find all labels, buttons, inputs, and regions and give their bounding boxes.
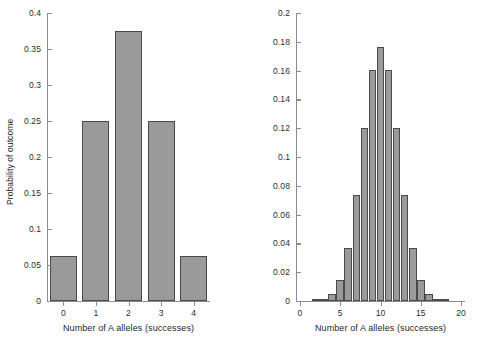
y-axis-tick-label: 0.14 — [256, 94, 290, 104]
bar — [361, 128, 369, 301]
y-axis-tick — [297, 128, 301, 129]
y-axis-tick-label: 0.04 — [256, 238, 290, 248]
y-axis-tick — [48, 49, 52, 50]
y-axis-tick-label: 0.16 — [256, 66, 290, 76]
x-axis-tick — [461, 302, 462, 306]
y-axis-tick — [297, 186, 301, 187]
y-axis-tick — [297, 71, 301, 72]
figure-container: 00.050.10.150.20.250.30.350.401234Number… — [0, 0, 492, 339]
bar — [409, 248, 417, 301]
chart-panel-right: 00.020.040.060.080.10.120.140.160.180.20… — [246, 0, 492, 339]
bar — [312, 299, 320, 301]
bar — [180, 256, 207, 301]
plot-area-right: 00.020.040.060.080.10.120.140.160.180.20… — [296, 13, 465, 301]
y-axis-tick — [48, 265, 52, 266]
y-axis-tick — [48, 301, 52, 302]
y-axis-tick-label: 0.02 — [256, 267, 290, 277]
x-axis-tick — [63, 302, 64, 306]
bar — [385, 70, 393, 301]
y-axis-tick — [48, 121, 52, 122]
x-axis-tick-label: 5 — [338, 308, 343, 318]
x-axis-title: Number of A alleles (successes) — [296, 323, 465, 333]
y-axis-tick-label: 0.1 — [256, 152, 290, 162]
y-axis-tick-label: 0.3 — [7, 80, 41, 90]
y-axis-tick — [297, 13, 301, 14]
bar — [425, 294, 433, 301]
x-axis-tick — [381, 302, 382, 306]
y-axis-tick — [48, 193, 52, 194]
bar — [320, 299, 328, 301]
y-axis-tick-label: 0 — [7, 296, 41, 306]
bar — [336, 280, 344, 301]
y-axis-tick-label: 0.05 — [7, 260, 41, 270]
y-axis-tick-label: 0.08 — [256, 181, 290, 191]
y-axis-tick — [297, 157, 301, 158]
x-axis-tick-label: 3 — [159, 308, 164, 318]
x-axis-tick-label: 0 — [298, 308, 303, 318]
x-axis-tick-label: 4 — [191, 308, 196, 318]
y-axis-tick-label: 0.2 — [256, 8, 290, 18]
y-axis-tick-label: 0.35 — [7, 44, 41, 54]
bar — [441, 299, 449, 301]
bar — [115, 31, 142, 301]
x-axis-tick-label: 20 — [456, 308, 466, 318]
x-axis-tick — [194, 302, 195, 306]
x-axis-tick — [340, 302, 341, 306]
x-axis-tick-label: 10 — [376, 308, 386, 318]
bar — [50, 256, 77, 301]
y-axis-tick — [48, 85, 52, 86]
y-axis-tick-label: 0.18 — [256, 37, 290, 47]
y-axis-tick — [48, 229, 52, 230]
x-axis-tick-label: 0 — [61, 308, 66, 318]
x-axis-tick — [96, 302, 97, 306]
y-axis-tick — [297, 243, 301, 244]
bar — [344, 248, 352, 301]
x-axis-title: Number of A alleles (successes) — [47, 323, 210, 333]
bar — [369, 70, 377, 301]
y-axis-tick — [297, 42, 301, 43]
plot-area-left: 00.050.10.150.20.250.30.350.401234Number… — [47, 13, 210, 301]
x-axis-tick-label: 15 — [416, 308, 426, 318]
y-axis-tick — [48, 157, 52, 158]
y-axis-tick-label: 0.1 — [7, 224, 41, 234]
bar — [393, 128, 401, 301]
y-axis-tick — [297, 99, 301, 100]
chart-panel-left: 00.050.10.150.20.250.30.350.401234Number… — [0, 0, 246, 339]
bar — [82, 121, 109, 301]
x-axis-tick — [300, 302, 301, 306]
y-axis-tick — [48, 13, 52, 14]
x-axis-tick-label: 2 — [126, 308, 131, 318]
y-axis-tick-label: 0.12 — [256, 123, 290, 133]
x-axis-tick — [421, 302, 422, 306]
bar — [353, 195, 361, 301]
y-axis-tick-label: 0.4 — [7, 8, 41, 18]
y-axis-tick-label: 0 — [256, 296, 290, 306]
y-axis-title: Probability of outcome — [5, 119, 15, 205]
bar — [148, 121, 175, 301]
bar — [377, 47, 385, 301]
bar — [417, 280, 425, 301]
y-axis-tick — [297, 215, 301, 216]
x-axis-tick — [129, 302, 130, 306]
y-axis-tick-label: 0.06 — [256, 210, 290, 220]
bar — [433, 299, 441, 301]
bar — [328, 294, 336, 301]
x-axis-tick — [161, 302, 162, 306]
y-axis-tick — [297, 272, 301, 273]
x-axis-tick-label: 1 — [93, 308, 98, 318]
bar — [401, 195, 409, 301]
